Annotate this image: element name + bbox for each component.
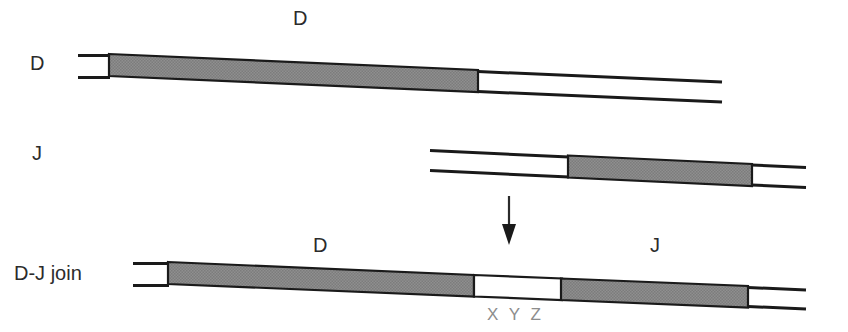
row-dj-join: D-J join D J X Y Z [14, 234, 806, 324]
segment-label-d-top: D [293, 7, 307, 29]
dj-junction-gap [474, 275, 562, 300]
j-open-right-bottom-strand [752, 185, 806, 188]
row-d-segment: D D [30, 7, 722, 102]
dj-open-right-bottom-strand [748, 307, 806, 310]
j-open-right-top-strand [752, 165, 806, 168]
dj-open-right-top-strand [748, 288, 806, 291]
junction-label-xyz: X Y Z [487, 305, 544, 324]
row-label-j: J [32, 142, 42, 164]
diagram-canvas: D D J [0, 0, 848, 332]
segment-label-j-bottom: J [650, 234, 660, 256]
j-open-left-top-strand [430, 151, 569, 158]
row-j-segment: J [32, 142, 806, 188]
segment-label-d-bottom: D [313, 234, 327, 256]
downward-arrow-head [502, 224, 516, 245]
dj-shaded-block-d [168, 262, 474, 297]
dj-shaded-block-j [561, 279, 748, 308]
d-shaded-block [109, 54, 478, 92]
j-open-left-bottom-strand [430, 171, 569, 178]
d-open-right-bottom-strand [478, 92, 722, 103]
d-open-right-top-strand [478, 72, 722, 83]
j-shaded-block [568, 156, 752, 187]
downward-arrow [502, 196, 516, 245]
recombination-diagram: D D J [0, 0, 848, 332]
row-label-d: D [30, 52, 44, 74]
row-label-dj-join: D-J join [14, 262, 82, 284]
